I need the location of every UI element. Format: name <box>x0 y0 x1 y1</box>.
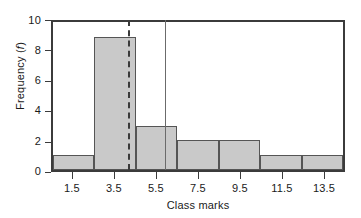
y-tick-label-8: 8 <box>1 45 41 56</box>
x-tick-label-6: 11.5 <box>260 182 304 194</box>
bar-5 <box>219 140 260 170</box>
x-tick-label-3: 5.5 <box>134 182 178 194</box>
y-tick-label-10: 10 <box>1 15 41 26</box>
x-tick-mark-7 <box>324 172 325 179</box>
plot-area <box>51 20 345 172</box>
x-tick-mark-6 <box>282 172 283 179</box>
y-tick-label-6: 6 <box>1 75 41 86</box>
x-tick-label-5: 9.5 <box>218 182 262 194</box>
x-tick-label-4: 7.5 <box>176 182 220 194</box>
x-axis-title: Class marks <box>51 199 345 211</box>
bar-4 <box>177 140 218 170</box>
bars-layer <box>53 22 343 170</box>
mean-line <box>165 20 166 170</box>
median-line <box>128 20 130 170</box>
x-tick-mark-4 <box>198 172 199 179</box>
x-tick-mark-3 <box>156 172 157 179</box>
y-tick-label-0: 0 <box>1 166 41 177</box>
x-tick-mark-5 <box>240 172 241 179</box>
bar-7 <box>302 155 343 170</box>
x-tick-mark-1 <box>72 172 73 179</box>
bar-2 <box>94 37 135 170</box>
bar-1 <box>53 155 94 170</box>
bar-6 <box>260 155 301 170</box>
y-tick-mark-0 <box>45 172 51 173</box>
bar-3 <box>136 126 177 170</box>
x-tick-label-2: 3.5 <box>92 182 136 194</box>
y-tick-label-4: 4 <box>1 105 41 116</box>
x-tick-label-7: 13.5 <box>302 182 346 194</box>
x-tick-label-1: 1.5 <box>50 182 94 194</box>
histogram-chart: Frequency (f) 10 8 6 4 2 0 1.5 3.5 5.5 7… <box>0 0 361 218</box>
x-tick-mark-2 <box>114 172 115 179</box>
y-tick-label-2: 2 <box>1 136 41 147</box>
